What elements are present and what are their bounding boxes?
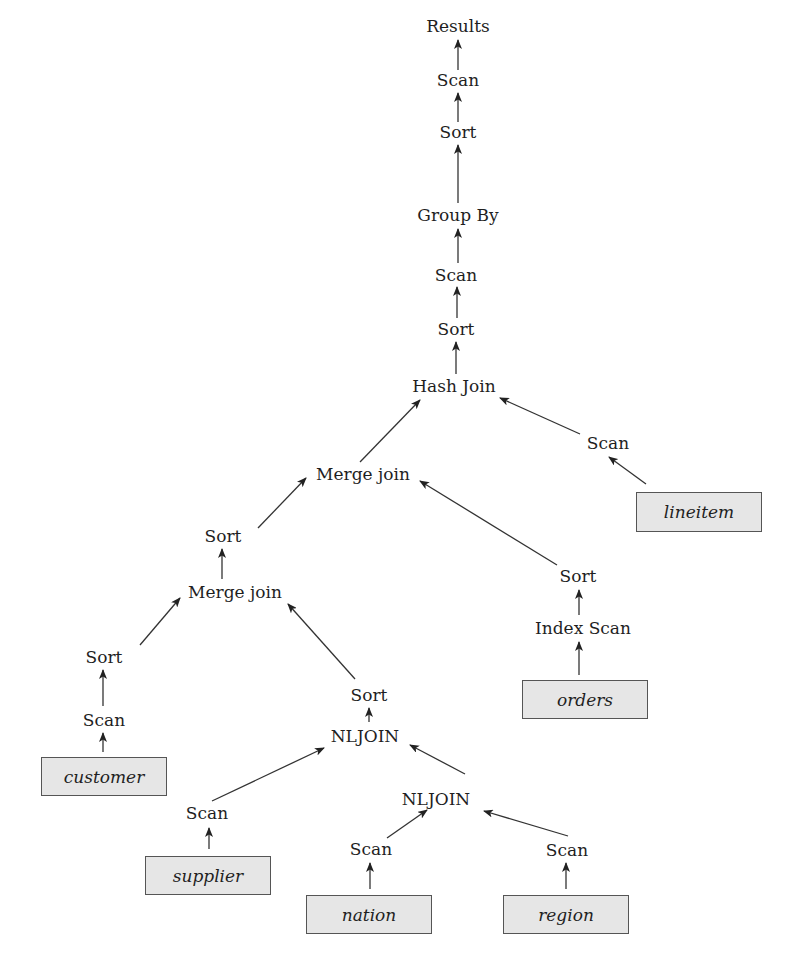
operator-mergejoin2: Merge join	[188, 584, 282, 601]
table-label: lineitem	[664, 502, 734, 522]
table-nation: nation	[306, 895, 432, 934]
edge-arrow-nljoin2-to-nljoin1	[410, 745, 465, 774]
edge-arrow-scan_region-to-nljoin2	[484, 811, 568, 836]
operator-sort_orders: Sort	[560, 568, 597, 585]
operator-indexscan: Index Scan	[535, 620, 631, 637]
operator-sort2: Sort	[438, 321, 475, 338]
table-label: supplier	[173, 866, 244, 886]
operator-scan_supplier: Scan	[186, 805, 228, 822]
edge-arrow-mergejoin1-to-hashjoin	[360, 400, 420, 462]
operator-hashjoin: Hash Join	[412, 378, 495, 395]
table-lineitem: lineitem	[636, 492, 762, 532]
edge-arrow-scan_nation-to-nljoin2	[387, 810, 427, 838]
operator-scan_lineitem: Scan	[587, 435, 629, 452]
table-region: region	[503, 895, 629, 934]
edge-arrow-sort_orders-to-mergejoin1	[420, 481, 557, 565]
edge-arrow-lineitem-to-scan_lineitem	[609, 457, 646, 484]
table-supplier: supplier	[145, 856, 271, 895]
operator-sort5: Sort	[351, 687, 388, 704]
table-label: region	[538, 905, 594, 925]
edge-arrow-sort4-to-mergejoin2	[140, 598, 180, 645]
operator-mergejoin1: Merge join	[316, 466, 410, 483]
operator-scan2: Scan	[435, 267, 477, 284]
operator-scan1: Scan	[437, 72, 479, 89]
table-customer: customer	[41, 757, 167, 796]
edge-arrow-sort5-to-mergejoin2	[288, 604, 355, 679]
table-label: nation	[342, 905, 397, 925]
table-orders: orders	[522, 680, 648, 719]
operator-sort1: Sort	[440, 124, 477, 141]
operator-sort3: Sort	[205, 528, 242, 545]
operator-nljoin2: NLJOIN	[402, 791, 471, 808]
edge-arrow-sort3-to-mergejoin1	[258, 478, 306, 528]
edges-layer	[0, 0, 794, 972]
operator-sort4: Sort	[86, 649, 123, 666]
operator-results: Results	[426, 18, 490, 35]
query-plan-diagram: ResultsScanSortGroup ByScanSortHash Join…	[0, 0, 794, 972]
edge-arrow-scan_supplier-to-nljoin1	[212, 748, 324, 801]
edge-arrow-scan_lineitem-to-hashjoin	[500, 398, 580, 434]
table-label: orders	[557, 690, 613, 710]
operator-scan_nation: Scan	[350, 841, 392, 858]
operator-groupby: Group By	[417, 207, 498, 224]
table-label: customer	[64, 767, 145, 787]
operator-scan_customer: Scan	[83, 712, 125, 729]
operator-scan_region: Scan	[546, 842, 588, 859]
operator-nljoin1: NLJOIN	[331, 728, 400, 745]
